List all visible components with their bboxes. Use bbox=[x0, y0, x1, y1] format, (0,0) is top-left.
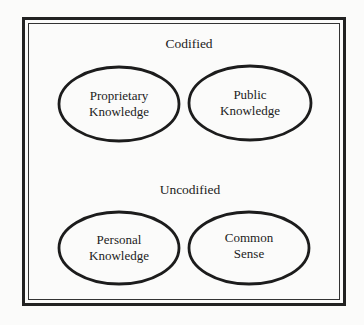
node-label-line2: Knowledge bbox=[89, 248, 149, 264]
node-label-line2: Sense bbox=[225, 246, 273, 262]
node-label-line1: Personal bbox=[89, 232, 149, 248]
node-label-line1: Common bbox=[225, 230, 273, 246]
node-proprietary-knowledge: Proprietary Knowledge bbox=[89, 88, 149, 120]
node-label-line2: Knowledge bbox=[89, 104, 149, 120]
node-personal-knowledge: Personal Knowledge bbox=[89, 232, 149, 264]
node-label-line1: Proprietary bbox=[89, 88, 149, 104]
node-common-sense: Common Sense bbox=[225, 230, 273, 262]
node-label-line2: Knowledge bbox=[220, 103, 280, 119]
heading-codified: Codified bbox=[165, 36, 212, 52]
node-label-line1: Public bbox=[220, 87, 280, 103]
node-public-knowledge: Public Knowledge bbox=[220, 87, 280, 119]
heading-uncodified: Uncodified bbox=[160, 182, 221, 198]
